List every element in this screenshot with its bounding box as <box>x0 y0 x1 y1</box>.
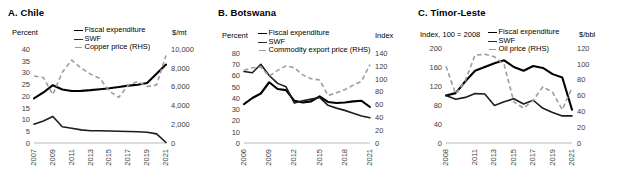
svg-text:2006: 2006 <box>239 149 248 166</box>
svg-text:40: 40 <box>22 45 30 54</box>
panel-chile: A. Chile Percent $/mt Fiscal expenditure… <box>0 0 212 180</box>
svg-text:2009: 2009 <box>48 149 57 166</box>
panel-timor-leste: C. Timor-Leste Index, 100 = 2008 $/bbl F… <box>412 0 617 180</box>
svg-text:15: 15 <box>22 104 30 113</box>
svg-text:6,000: 6,000 <box>171 82 190 91</box>
svg-text:40: 40 <box>375 113 383 122</box>
line-chart-svg: 051015202530354002,0004,0006,0008,00010,… <box>0 0 212 180</box>
svg-text:2017: 2017 <box>528 149 537 166</box>
svg-text:4,000: 4,000 <box>171 101 190 110</box>
svg-text:120: 120 <box>375 62 388 71</box>
series-line <box>446 94 572 116</box>
svg-text:120: 120 <box>429 82 442 91</box>
chart-figure: A. Chile Percent $/mt Fiscal expenditure… <box>0 0 617 180</box>
series-line <box>34 116 166 142</box>
svg-text:2015: 2015 <box>509 149 518 166</box>
svg-text:0: 0 <box>26 139 30 148</box>
svg-text:35: 35 <box>22 57 30 66</box>
line-chart-svg: 0408012016020002040608010012020082011201… <box>412 0 617 180</box>
plot-area: 0102030405060708002040608010012014020062… <box>212 0 412 180</box>
svg-text:2017: 2017 <box>123 149 132 166</box>
svg-text:2009: 2009 <box>264 149 273 166</box>
plot-area: 051015202530354002,0004,0006,0008,00010,… <box>0 0 212 180</box>
svg-text:160: 160 <box>429 63 442 72</box>
svg-text:0: 0 <box>171 139 175 148</box>
svg-text:20: 20 <box>232 116 240 125</box>
svg-text:0: 0 <box>236 139 240 148</box>
svg-text:2,000: 2,000 <box>171 120 190 129</box>
svg-text:10: 10 <box>232 128 240 137</box>
svg-text:0: 0 <box>375 139 379 148</box>
svg-text:8,000: 8,000 <box>171 64 190 73</box>
svg-text:20: 20 <box>375 126 383 135</box>
svg-text:2012: 2012 <box>289 149 298 166</box>
svg-text:200: 200 <box>429 44 442 53</box>
svg-text:60: 60 <box>232 71 240 80</box>
panel-botswana: B. Botswana Percent Index Fiscal expendi… <box>212 0 412 180</box>
svg-text:2021: 2021 <box>567 149 576 166</box>
svg-text:2019: 2019 <box>142 149 151 166</box>
svg-text:2015: 2015 <box>104 149 113 166</box>
svg-text:40: 40 <box>434 120 442 129</box>
svg-text:2019: 2019 <box>548 149 557 166</box>
svg-text:5: 5 <box>26 127 30 136</box>
svg-text:100: 100 <box>577 60 590 69</box>
series-line <box>446 60 572 109</box>
svg-text:10,000: 10,000 <box>171 45 194 54</box>
series-line <box>34 55 166 97</box>
svg-text:2013: 2013 <box>86 149 95 166</box>
svg-text:80: 80 <box>434 101 442 110</box>
svg-text:80: 80 <box>232 49 240 58</box>
svg-text:25: 25 <box>22 80 30 89</box>
svg-text:2021: 2021 <box>161 149 170 166</box>
svg-text:80: 80 <box>577 75 585 84</box>
svg-text:2018: 2018 <box>340 149 349 166</box>
svg-text:2008: 2008 <box>441 149 450 166</box>
plot-area: 0408012016020002040608010012020082011201… <box>412 0 617 180</box>
svg-text:2011: 2011 <box>470 149 479 165</box>
svg-text:0: 0 <box>577 139 581 148</box>
svg-text:70: 70 <box>232 60 240 69</box>
svg-text:60: 60 <box>375 100 383 109</box>
svg-text:2021: 2021 <box>365 149 374 166</box>
svg-text:2007: 2007 <box>29 149 38 166</box>
svg-text:100: 100 <box>375 75 388 84</box>
svg-text:120: 120 <box>577 44 590 53</box>
svg-text:2013: 2013 <box>489 149 498 166</box>
svg-text:40: 40 <box>577 107 585 116</box>
svg-text:140: 140 <box>375 49 388 58</box>
svg-text:2015: 2015 <box>315 149 324 166</box>
line-chart-svg: 0102030405060708002040608010012014020062… <box>212 0 412 180</box>
svg-text:30: 30 <box>232 105 240 114</box>
svg-text:20: 20 <box>577 123 585 132</box>
svg-text:40: 40 <box>232 94 240 103</box>
svg-text:10: 10 <box>22 115 30 124</box>
svg-text:0: 0 <box>438 139 442 148</box>
svg-text:60: 60 <box>577 91 585 100</box>
svg-text:30: 30 <box>22 68 30 77</box>
svg-text:2011: 2011 <box>67 149 76 165</box>
svg-text:20: 20 <box>22 92 30 101</box>
svg-text:50: 50 <box>232 83 240 92</box>
svg-text:80: 80 <box>375 87 383 96</box>
